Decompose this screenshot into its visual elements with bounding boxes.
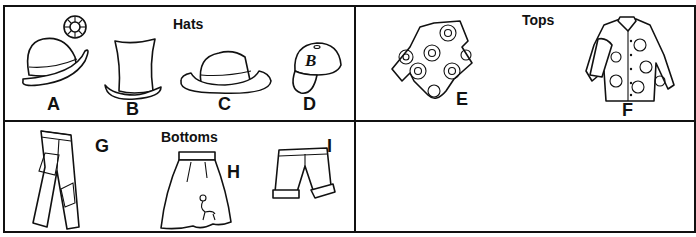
flower-shirt-icon[interactable] xyxy=(390,19,480,99)
bowler-hat-icon[interactable] xyxy=(19,17,99,87)
clothing-grid: Hats A B C xyxy=(3,5,696,233)
poodle-skirt-icon[interactable] xyxy=(155,152,231,232)
shorts-icon[interactable] xyxy=(269,146,335,208)
baseball-cap-icon[interactable]: B xyxy=(287,41,347,97)
item-label-a: A xyxy=(47,94,60,115)
cap-emblem: B xyxy=(304,51,316,70)
tops-title: Tops xyxy=(522,12,554,28)
empty-panel xyxy=(356,122,694,231)
fedora-hat-icon[interactable] xyxy=(179,47,275,97)
item-label-g: G xyxy=(95,136,109,157)
hats-title: Hats xyxy=(173,16,203,32)
item-label-i: I xyxy=(327,136,332,157)
item-label-f: F xyxy=(622,100,633,121)
item-label-h: H xyxy=(227,162,240,183)
item-label-b: B xyxy=(126,99,139,120)
jeans-icon[interactable] xyxy=(25,127,95,231)
bottoms-panel: Bottoms G H I xyxy=(5,122,354,231)
polka-dot-shirt-icon[interactable] xyxy=(584,15,680,105)
top-hat-icon[interactable] xyxy=(103,39,167,101)
item-label-d: D xyxy=(303,94,316,115)
item-label-e: E xyxy=(456,89,468,110)
item-label-c: C xyxy=(218,94,231,115)
hats-panel: Hats A B C xyxy=(5,7,354,120)
tops-panel: Tops E F xyxy=(356,7,694,120)
bottoms-title: Bottoms xyxy=(161,129,218,145)
